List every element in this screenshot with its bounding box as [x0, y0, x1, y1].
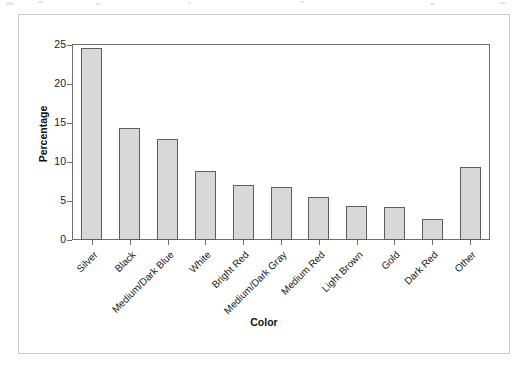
x-tick-mark — [205, 240, 206, 245]
x-tick-label-text: Black — [113, 249, 138, 274]
x-tick-mark — [92, 240, 93, 245]
x-tick-mark — [319, 240, 320, 245]
x-tick-mark — [432, 240, 433, 245]
x-tick-label-text: Dark Red — [402, 249, 440, 287]
y-tick-label: 15 — [54, 117, 66, 128]
x-tick-label-text: White — [187, 249, 213, 275]
y-tick-label: 5 — [60, 195, 66, 206]
x-axis-title: Color — [0, 316, 528, 328]
x-tick-mark — [357, 240, 358, 245]
x-tick-mark — [168, 240, 169, 245]
y-tick-label: 20 — [54, 78, 66, 89]
x-tick-label-text: Other — [452, 249, 477, 274]
y-tick-label: 25 — [54, 39, 66, 50]
x-tick-label-text: Gold — [379, 249, 402, 272]
y-tick-mark — [67, 45, 72, 46]
y-tick-mark — [67, 201, 72, 202]
x-tick-mark — [394, 240, 395, 245]
bar-chart: 0510152025SilverBlackMedium/Dark BlueWhi… — [0, 0, 528, 366]
x-tick-mark — [243, 240, 244, 245]
y-tick-mark — [67, 162, 72, 163]
y-tick-mark — [67, 123, 72, 124]
x-tick-mark — [130, 240, 131, 245]
x-tick-mark — [281, 240, 282, 245]
x-tick-mark — [470, 240, 471, 245]
y-tick-mark — [67, 84, 72, 85]
y-axis-title: Percentage — [37, 79, 49, 189]
y-axis: 0510152025SilverBlackMedium/Dark BlueWhi… — [0, 0, 528, 366]
y-tick-mark — [67, 240, 72, 241]
y-tick-label: 10 — [54, 156, 66, 167]
x-tick-label-text: Silver — [74, 249, 99, 274]
y-tick-label: 0 — [60, 234, 66, 245]
